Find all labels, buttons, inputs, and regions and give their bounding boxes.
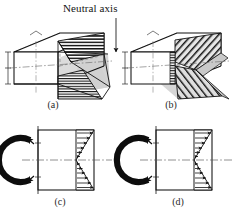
caption-panel-c: (c) <box>40 196 80 207</box>
panel-c <box>0 126 112 194</box>
figure-root: Neutral axis (a) (b) (c) (d) <box>0 0 239 220</box>
shear-web-strip-b <box>170 52 175 84</box>
caption-panel-d: (d) <box>158 196 198 207</box>
dimension-ticks-top-a <box>30 31 42 35</box>
dimension-ticks-a <box>5 52 11 84</box>
neutral-axis-label: Neutral axis <box>63 2 118 14</box>
caption-panel-b: (b) <box>151 99 191 110</box>
panel-a <box>5 31 112 99</box>
panel-b <box>122 31 229 99</box>
panel-d <box>117 126 232 194</box>
caption-panel-a: (a) <box>33 99 73 110</box>
dimension-ticks-b <box>122 52 128 84</box>
dimension-ticks-top-b <box>147 31 159 35</box>
figure-canvas <box>0 0 239 220</box>
